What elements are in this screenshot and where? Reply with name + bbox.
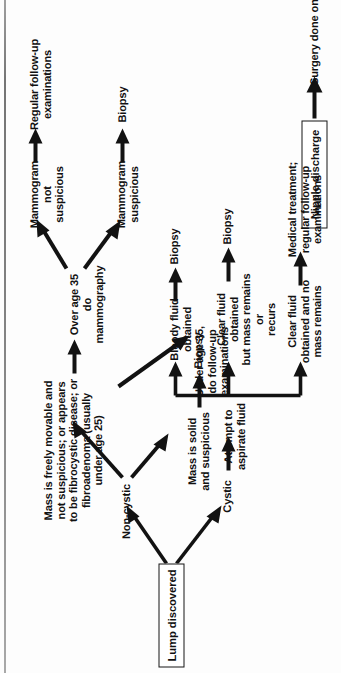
node-biopsy-mammogram[interactable]: Biopsy xyxy=(116,80,129,128)
node-over-age-35[interactable]: Over age 35 do mammography xyxy=(68,265,106,343)
node-attempt-aspirate[interactable]: Attempt to aspirate fluid xyxy=(222,393,247,479)
node-mammogram-suspicious[interactable]: Mammogram suspicious xyxy=(115,159,140,229)
scanned-page: Lump discovered Nipple discharge Non-cys… xyxy=(0,0,341,673)
box-lump-discovered[interactable]: Lump discovered xyxy=(158,563,184,667)
node-regular-followup[interactable]: Regular follow-up examinations xyxy=(28,38,53,130)
arrow-suspicious-to-biopsy xyxy=(115,128,129,162)
arrow-noncystic-to-solid xyxy=(131,433,168,477)
node-clear-fluid-no-mass[interactable]: Clear fluid obtained and no mass remains xyxy=(286,279,324,363)
node-mass-freely-movable[interactable]: Mass is freely movable and not suspiciou… xyxy=(42,371,105,529)
node-clear-fluid-mass-remains[interactable]: Clear fluid obtained but mass remains or… xyxy=(215,271,278,367)
arrow-movable-to-over35 xyxy=(67,339,81,373)
node-mass-solid-suspicious[interactable]: Mass is solid and suspicious xyxy=(186,405,211,497)
arrow-lump-to-cystic xyxy=(176,505,221,563)
flowchart-canvas: Lump discovered Nipple discharge Non-cys… xyxy=(0,0,341,673)
node-mammogram-not-suspicious[interactable]: Mammogram not suspicious xyxy=(28,157,66,231)
node-bloody-fluid[interactable]: Bloody fluid obtained xyxy=(168,295,193,363)
node-non-cystic[interactable]: Non-cystic xyxy=(120,478,133,544)
node-biopsy-bloody[interactable]: Biopsy xyxy=(168,223,181,269)
node-biopsy-clear[interactable]: Biopsy xyxy=(221,203,234,249)
node-medical-treatment[interactable]: Medical treatment; regular follow-up exa… xyxy=(286,159,324,259)
node-surgery-note: Surgery done only if a lump can be xyxy=(308,0,321,85)
